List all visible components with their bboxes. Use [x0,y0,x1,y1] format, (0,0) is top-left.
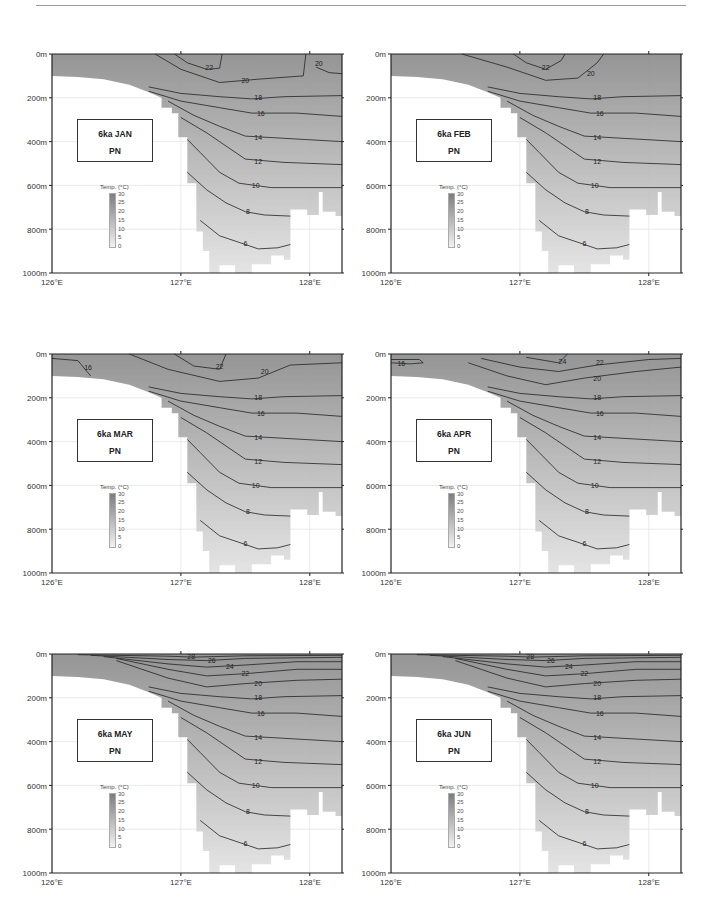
contour-label: 12 [254,458,262,465]
panel-label-box: 6ka JUN PN [416,719,492,762]
contour-label: 16 [257,110,265,117]
colorbar-title: Temp. (°C) [100,184,129,190]
colorbar-tick: 5 [457,534,460,540]
colorbar-tick: 0 [457,843,460,849]
contour-label: 22 [205,64,213,71]
y-tick-label: 0m [350,350,386,359]
y-tick-label: 1000m [350,269,386,278]
section-plot: 6810121416182022 [339,45,679,295]
contour-label: 16 [596,410,604,417]
x-tick-label: 127°E [500,878,540,887]
colorbar-title: Temp. (°C) [439,184,468,190]
contour-label: 18 [593,694,601,701]
section-panel-jan: 681012141618202220 0m 200m 400m 600m 800… [0,45,340,295]
ocean-temperature-field [52,54,342,273]
contour-label: 16 [84,364,92,371]
y-tick-label: 1000m [350,569,386,578]
x-tick-label: 126°E [371,878,411,887]
contour-label: 10 [252,482,260,489]
contour-label: 22 [542,64,550,71]
colorbar-tick: 30 [118,791,125,797]
panel-label-box: 6ka JAN PN [77,119,153,162]
section-panel-apr: 68101214161820222416 0m 200m 400m 600m 8… [339,345,679,595]
colorbar-tick: 0 [457,543,460,549]
contour-label: 16 [397,360,405,367]
colorbar [109,193,116,248]
colorbar [448,193,455,248]
contour-label: 10 [252,782,260,789]
contour-label: 14 [254,734,262,741]
y-tick-label: 1000m [11,569,47,578]
ocean-temperature-field [52,654,342,873]
y-tick-label: 200m [350,694,386,703]
colorbar-tick: 15 [118,217,125,223]
colorbar-tick: 5 [457,834,460,840]
section-panel-jun: 6810121416182022242628 0m 200m 400m 600m… [339,645,679,895]
x-tick-label: 126°E [371,278,411,287]
y-tick-label: 1000m [350,869,386,878]
contour-label: 20 [587,70,595,77]
ocean-temperature-field [391,54,681,273]
contour-label: 20 [261,368,269,375]
panel-title: 6ka MAY [78,729,152,739]
y-tick-label: 800m [11,526,47,535]
colorbar-tick: 25 [457,199,464,205]
colorbar-tick: 5 [457,234,460,240]
panel-subtitle: PN [78,146,152,156]
contour-label: 12 [254,158,262,165]
x-tick-label: 128°E [629,878,669,887]
contour-label: 24 [559,358,567,365]
contour-label: 6 [243,840,247,847]
x-tick-label: 126°E [371,578,411,587]
contour-label: 22 [216,363,224,370]
contour-label: 8 [246,508,250,515]
y-tick-label: 600m [11,782,47,791]
contour-label: 20 [241,77,249,84]
x-tick-label: 128°E [629,578,669,587]
section-plot: 6810121416182022242628 [0,645,340,895]
colorbar-tick: 10 [457,826,464,832]
contour-label: 24 [565,663,573,670]
contour-label: 8 [246,808,250,815]
contour-label: 24 [226,663,234,670]
panel-subtitle: PN [417,446,491,456]
x-tick-label: 127°E [161,578,201,587]
colorbar-title: Temp. (°C) [100,784,129,790]
y-tick-label: 600m [350,182,386,191]
y-tick-label: 0m [350,50,386,59]
section-panel-feb: 6810121416182022 0m 200m 400m 600m 800m … [339,45,679,295]
colorbar-tick: 25 [457,799,464,805]
colorbar-tick: 30 [118,191,125,197]
colorbar-tick: 20 [118,808,125,814]
contour-label: 18 [254,94,262,101]
contour-label: 18 [254,694,262,701]
contour-label: 8 [246,208,250,215]
y-tick-label: 200m [350,94,386,103]
x-tick-label: 128°E [629,278,669,287]
colorbar-tick: 0 [118,543,121,549]
x-tick-label: 128°E [290,578,330,587]
colorbar-tick: 15 [457,517,464,523]
colorbar-tick: 25 [118,499,125,505]
colorbar-tick: 5 [118,534,121,540]
colorbar-tick: 20 [457,208,464,214]
contour-label: 22 [241,670,249,677]
colorbar-tick: 25 [457,499,464,505]
y-tick-label: 400m [350,438,386,447]
section-plot: 68101214161820222416 [339,345,679,595]
contour-label: 16 [596,710,604,717]
contour-label: 6 [243,540,247,547]
y-tick-label: 0m [11,350,47,359]
contour-label: 10 [591,482,599,489]
y-tick-label: 200m [11,394,47,403]
colorbar-tick: 30 [457,491,464,497]
x-tick-label: 127°E [500,578,540,587]
contour-label: 12 [254,758,262,765]
contour-label: 20 [593,680,601,687]
colorbar-tick: 30 [457,791,464,797]
x-tick-label: 126°E [32,578,72,587]
colorbar-tick: 20 [118,508,125,514]
panel-subtitle: PN [417,746,491,756]
contour-label: 18 [254,394,262,401]
y-tick-label: 800m [350,226,386,235]
